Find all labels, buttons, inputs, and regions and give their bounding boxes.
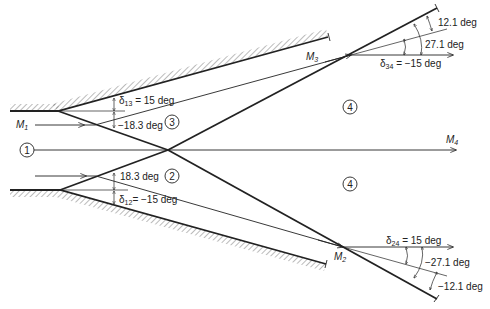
svg-text:2: 2	[169, 171, 175, 182]
region-4-lower: 4	[343, 177, 357, 191]
label-delta-13: δ13 = 15 deg	[119, 95, 174, 107]
region-2: 2	[165, 169, 179, 183]
label-delta-24: δ24 = 15 deg	[386, 235, 441, 247]
label-delta-12: δ12= −15 deg	[119, 194, 177, 206]
lower-transmitted-shock	[168, 150, 437, 299]
label-m4: M4	[446, 134, 458, 146]
svg-text:3: 3	[169, 117, 175, 128]
svg-text:4: 4	[347, 179, 353, 190]
upper-transmitted-shock	[168, 8, 437, 150]
label-m2: M2	[334, 251, 346, 263]
label-m3: M3	[306, 51, 318, 63]
shock-intersection-diagram: 1 2 3 4 4 M1 M3 M4 M2 δ13 = 15 deg −18.3…	[0, 0, 490, 309]
label-m1: M1	[16, 119, 28, 131]
label-shock-angle-lower: 18.3 deg	[120, 171, 159, 182]
label-angle-neg-12-1: −12.1 deg	[438, 281, 483, 292]
region-4-upper: 4	[343, 100, 357, 114]
svg-text:4: 4	[347, 102, 353, 113]
label-angle-12-1: 12.1 deg	[438, 17, 477, 28]
label-angle-27-1: 27.1 deg	[425, 39, 464, 50]
region-1: 1	[20, 143, 34, 157]
label-shock-angle-upper: −18.3 deg	[118, 120, 163, 131]
svg-text:1: 1	[24, 145, 30, 156]
region-3: 3	[165, 115, 179, 129]
label-delta-34: δ34 = −15 deg	[380, 58, 441, 70]
label-angle-neg-27-1: −27.1 deg	[425, 257, 470, 268]
